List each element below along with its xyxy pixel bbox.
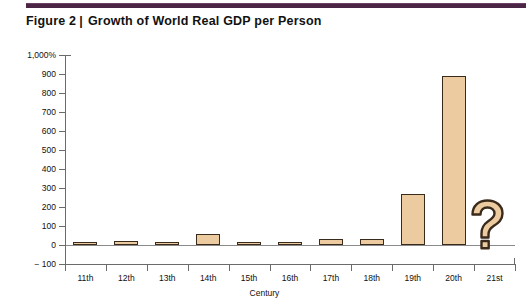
- x-axis-label: 12th: [106, 273, 147, 283]
- y-axis-label-wrap: 800: [8, 88, 56, 98]
- question-mark-icon: [466, 198, 508, 250]
- y-axis-label: − 100: [8, 259, 56, 269]
- y-axis-label: 0: [8, 240, 56, 250]
- y-axis-label: 500: [8, 145, 56, 155]
- x-axis-tick: [147, 264, 148, 271]
- x-axis-tick: [65, 264, 66, 271]
- y-axis-label: 900: [8, 69, 56, 79]
- x-axis-tick: [188, 264, 189, 271]
- y-axis-tick: [59, 74, 66, 75]
- y-axis-tick: [59, 245, 66, 246]
- figure-container: Figure 2|Growth of World Real GDP per Pe…: [0, 0, 529, 307]
- x-axis-label: 13th: [147, 273, 188, 283]
- y-axis-label-wrap: 300: [8, 183, 56, 193]
- x-axis-tick: [433, 264, 434, 271]
- y-axis-label: 400: [8, 164, 56, 174]
- bar: [237, 242, 261, 245]
- x-axis-label: 21st: [474, 273, 515, 283]
- y-axis-line: [65, 55, 66, 265]
- y-axis-label-wrap: 200: [8, 202, 56, 212]
- y-axis-label-wrap: 100: [8, 221, 56, 231]
- x-axis-label: 14th: [188, 273, 229, 283]
- x-axis-tick: [106, 264, 107, 271]
- y-axis-tick: [59, 150, 66, 151]
- x-axis-tick: [229, 264, 230, 271]
- bar: [73, 242, 97, 245]
- x-axis-tick: [474, 264, 475, 271]
- x-axis-label: 11th: [65, 273, 106, 283]
- y-axis-label: 800: [8, 88, 56, 98]
- x-axis-label: 19th: [392, 273, 433, 283]
- y-axis-label-wrap: − 100: [8, 259, 56, 269]
- y-axis-tick: [59, 112, 66, 113]
- y-axis-tick: [59, 207, 66, 208]
- bar: [442, 76, 466, 245]
- y-axis-label-wrap: 500: [8, 145, 56, 155]
- y-axis-tick: [59, 226, 66, 227]
- y-axis-tick: [59, 93, 66, 94]
- x-axis-tick: [515, 264, 516, 271]
- y-axis-label: 100: [8, 221, 56, 231]
- x-axis-label: 17th: [310, 273, 351, 283]
- x-axis-label: 20th: [433, 273, 474, 283]
- zero-baseline: [65, 245, 515, 246]
- y-axis-label-wrap: 700: [8, 107, 56, 117]
- x-axis-tick: [270, 264, 271, 271]
- x-axis-label: 15th: [229, 273, 270, 283]
- bar: [278, 242, 302, 245]
- y-axis-label-wrap: 900: [8, 69, 56, 79]
- x-axis-label: 16th: [270, 273, 311, 283]
- y-axis-tick: [59, 131, 66, 132]
- chart-plot-area: 1,000%9008007006005004003002001000− 100 …: [0, 0, 529, 307]
- x-axis-line: [65, 264, 515, 265]
- y-axis-label-wrap: 0: [8, 240, 56, 250]
- bar: [319, 239, 343, 245]
- bar: [196, 234, 220, 245]
- x-axis-tick: [310, 264, 311, 271]
- bar: [155, 242, 179, 245]
- y-axis-label-wrap: 1,000%: [8, 50, 56, 60]
- y-axis-label: 600: [8, 126, 56, 136]
- x-axis-tick: [351, 264, 352, 271]
- bar: [114, 241, 138, 245]
- y-axis-label: 700: [8, 107, 56, 117]
- y-axis-tick: [59, 169, 66, 170]
- y-axis-tick: [59, 55, 66, 56]
- x-axis-tick: [392, 264, 393, 271]
- y-axis-label-wrap: 400: [8, 164, 56, 174]
- bar: [360, 239, 384, 245]
- bar: [401, 194, 425, 245]
- y-axis-label-wrap: 600: [8, 126, 56, 136]
- y-axis-label: 200: [8, 202, 56, 212]
- y-axis-label: 1,000%: [8, 50, 56, 60]
- x-axis-title: Century: [0, 288, 529, 298]
- y-axis-tick: [59, 188, 66, 189]
- y-axis-label: 300: [8, 183, 56, 193]
- x-axis-label: 18th: [351, 273, 392, 283]
